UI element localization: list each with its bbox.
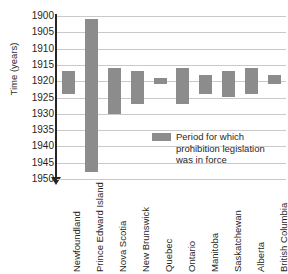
prohibition-period-chart: Time (years) 190019051910191519201925193… <box>0 0 288 274</box>
y-tick-label: 1930 <box>32 109 54 119</box>
legend-label-line2: prohibition legislation <box>176 143 284 155</box>
bar <box>131 71 144 104</box>
x-tick-label: Manitoba <box>210 233 220 272</box>
y-tick-label: 1940 <box>32 141 54 151</box>
x-tick-label: Quebec <box>164 239 174 272</box>
y-tick-label: 1910 <box>32 44 54 54</box>
bar <box>154 78 167 85</box>
bar <box>108 68 121 114</box>
gridline <box>57 16 286 17</box>
gridline <box>57 179 286 180</box>
bar <box>268 75 281 85</box>
legend-label-line3: was in force <box>176 154 284 166</box>
x-tick-label: Saskatchewan <box>233 210 243 272</box>
y-tick-label: 1945 <box>32 158 54 168</box>
x-tick-label: British Columbia <box>279 203 288 272</box>
y-tick-label: 1915 <box>32 60 54 70</box>
y-tick-label: 1905 <box>32 27 54 37</box>
y-tick-label: 1920 <box>32 76 54 86</box>
x-tick-label: Nova Scotia <box>118 221 128 272</box>
x-tick-label: Alberta <box>256 242 266 272</box>
y-tick-label: 1925 <box>32 93 54 103</box>
x-tick-label: New Brunswick <box>141 207 151 272</box>
bar <box>85 19 98 172</box>
y-tick-label: 1900 <box>32 11 54 21</box>
bar <box>62 71 75 94</box>
x-tick-label: Prince Edward Island <box>95 182 105 272</box>
y-tick-label: 1935 <box>32 125 54 135</box>
x-axis-category-labels: NewfoundlandPrince Edward IslandNova Sco… <box>57 182 288 274</box>
x-tick-label: Newfoundland <box>72 211 82 272</box>
bar <box>199 75 212 95</box>
legend-color-swatch <box>152 133 171 141</box>
bar <box>222 71 235 97</box>
x-tick-label: Ontario <box>187 241 197 272</box>
bar <box>245 68 258 94</box>
y-axis-tick-labels: 1900190519101915192019251930193519401945… <box>18 0 54 185</box>
legend-label-line1: Period for which <box>176 131 284 143</box>
legend: Period for which prohibition legislation… <box>152 131 284 166</box>
bar <box>176 68 189 104</box>
